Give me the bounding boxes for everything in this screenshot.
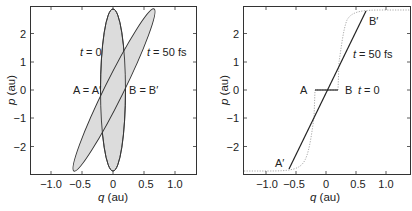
y-axis-unit: (au) — [5, 75, 17, 99]
right-ytick-label: 1 — [233, 56, 239, 68]
left-ytick-label: 1 — [20, 56, 26, 68]
right-label-t0: t = 0 — [358, 84, 380, 96]
left-xtick-label: −0.5 — [69, 178, 91, 190]
left-label-t0: t = 0 — [80, 46, 102, 58]
right-x-axis-label: q (au) — [310, 191, 340, 203]
right-xtick-label: −1.0 — [256, 178, 278, 190]
x-axis-unit: (au) — [316, 191, 340, 203]
left-ytick-label: 0 — [20, 84, 26, 96]
label-rest: = 50 fs — [356, 48, 393, 60]
label-rest: = 50 fs — [150, 46, 187, 58]
right-xtick-label: 0 — [323, 178, 329, 190]
left-xtick-label: 0.5 — [138, 178, 153, 190]
x-axis-unit: (au) — [104, 191, 128, 203]
left-label-a-equals-a-prime: A = A′ — [73, 84, 101, 96]
left-ytick-label: −2 — [13, 141, 26, 153]
figure: −1.0 −0.5 0 0.5 1.0 2 1 0 −1 −2 q (au) p… — [0, 0, 412, 211]
right-label-b-prime: B′ — [369, 15, 378, 27]
right-label-t50fs: t = 50 fs — [353, 48, 393, 60]
right-label-a-prime: A′ — [275, 157, 284, 169]
label-rest: = 0 — [361, 84, 380, 96]
left-ytick-label: 2 — [20, 28, 26, 40]
left-panel: −1.0 −0.5 0 0.5 1.0 2 1 0 −1 −2 q (au) p… — [5, 5, 197, 203]
left-label-b-equals-b-prime: B = B′ — [129, 84, 158, 96]
right-xtick-label: 1.0 — [378, 178, 393, 190]
y-axis-unit: (au) — [218, 75, 230, 99]
right-ytick-label: 0 — [233, 84, 239, 96]
right-y-axis-label: p (au) — [218, 75, 230, 106]
left-ytick-label: −1 — [13, 112, 26, 124]
right-label-a: A — [300, 84, 308, 96]
right-xtick-label: 0.5 — [350, 178, 365, 190]
left-xtick-label: 1.0 — [167, 178, 182, 190]
left-y-axis-label: p (au) — [5, 75, 17, 106]
left-xtick-label: 0 — [110, 178, 116, 190]
right-panel: −1.0 −0.5 0 0.5 1.0 2 1 0 −1 −2 q (au) p… — [218, 7, 411, 204]
right-ytick-label: 2 — [233, 28, 239, 40]
left-label-t50fs: t = 50 fs — [147, 46, 187, 58]
right-xtick-label: −0.5 — [283, 178, 305, 190]
right-ytick-label: −1 — [226, 112, 239, 124]
right-label-b: B — [345, 84, 352, 96]
right-ytick-label: −2 — [226, 141, 239, 153]
label-rest: = 0 — [83, 46, 102, 58]
left-x-axis-label: q (au) — [98, 191, 128, 203]
left-xtick-label: −1.0 — [40, 178, 62, 190]
